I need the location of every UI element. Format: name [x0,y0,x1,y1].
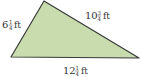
svg-text:1: 1 [9,19,13,25]
right-side-label: 10 3 4 ft [85,10,110,23]
triangle [11,1,139,58]
triangle-diagram: 6 1 4 ft 10 3 4 ft 12 1 4 ft [0,0,142,76]
svg-text:3: 3 [98,10,102,16]
svg-text:ft: ft [14,20,21,30]
svg-text:4: 4 [9,25,13,31]
svg-text:4: 4 [98,16,102,22]
svg-text:ft: ft [103,11,110,21]
svg-text:10: 10 [85,10,98,21]
svg-text:4: 4 [76,71,80,76]
svg-text:6: 6 [2,19,8,30]
left-side-label: 6 1 4 ft [2,19,21,32]
svg-text:1: 1 [76,65,80,71]
bottom-side-label: 12 1 4 ft [63,65,88,77]
svg-text:12: 12 [63,65,76,76]
svg-text:ft: ft [81,66,88,76]
